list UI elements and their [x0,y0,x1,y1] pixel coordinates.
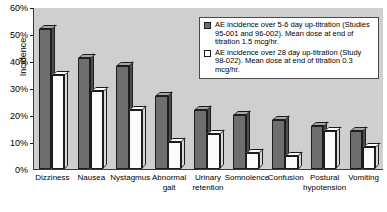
bar-group [112,8,151,169]
bar-front-face [207,134,220,169]
bar-group [34,8,73,169]
bar-front-face [116,66,129,169]
bar-front-face [246,153,259,169]
bar-side-face [64,70,68,169]
bar-front-face [311,126,324,169]
bar-series-1 [116,66,129,169]
bar-front-face [129,110,142,169]
bar-side-face [181,137,185,169]
bar-series-2 [129,110,142,169]
bar-front-face [78,58,91,169]
y-axis-tick-label: 40% [10,57,28,67]
bar-series-2 [363,147,376,169]
bar-series-1 [233,115,246,169]
bar-front-face [52,75,65,170]
bar-series-2 [285,156,298,170]
bar-side-face [220,129,224,169]
bar-series-1 [194,110,207,169]
bar-chart: Incidence 60%50%40%30%20%10%0% Dizziness… [0,0,387,212]
bar-series-1 [311,126,324,169]
bar-series-2 [168,142,181,169]
bar-front-face [285,156,298,170]
legend-swatch-icon [204,22,211,29]
y-axis-tick-label: 20% [10,111,28,121]
bar-side-face [103,86,107,169]
bar-series-1 [155,96,168,169]
legend-swatch-icon [204,50,211,57]
bar-series-2 [91,91,104,169]
x-axis-tick-label: Vomiting [338,173,387,183]
bar-front-face [194,110,207,169]
bar-front-face [91,91,104,169]
y-axis-tick-label: 30% [10,84,28,94]
bar-series-1 [272,120,285,169]
bar-series-2 [207,134,220,169]
legend-entry-label: AE incidence over 28 day up-titration (S… [215,49,374,75]
bar-front-face [350,131,363,169]
bar-front-face [168,142,181,169]
y-axis-tick-label: 50% [10,30,28,40]
bar-series-1 [39,29,52,169]
y-axis-tick-label: 10% [10,138,28,148]
bar-front-face [324,131,337,169]
x-axis-tick-labels: DizzinessNauseaNystagmusAbnormal gaitUri… [33,173,383,212]
legend-entry-label: AE incidence over 5-6 day up-titration (… [215,21,374,47]
bar-series-1 [78,58,91,169]
bar-front-face [39,29,52,169]
chart-legend: AE incidence over 5-6 day up-titration (… [199,17,379,79]
bar-front-face [233,115,246,169]
bar-series-1 [350,131,363,169]
bar-side-face [142,105,146,169]
bar-series-2 [246,153,259,169]
bar-group [151,8,190,169]
y-axis-tick-label: 60% [10,3,28,13]
bar-front-face [272,120,285,169]
legend-entry: AE incidence over 28 day up-titration (S… [203,49,374,75]
bar-side-face [336,126,340,169]
bar-series-2 [52,75,65,170]
bar-group [73,8,112,169]
legend-entry: AE incidence over 5-6 day up-titration (… [203,21,374,47]
bar-series-2 [324,131,337,169]
bar-front-face [363,147,376,169]
bar-front-face [155,96,168,169]
